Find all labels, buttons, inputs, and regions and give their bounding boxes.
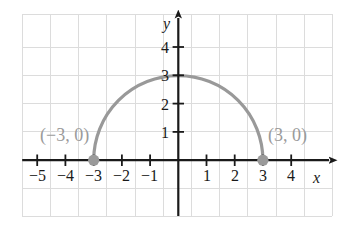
graph-figure: −5 −4 −3 −2 −1 1 2 3 4 1 2 3 4 x y (−3, … bbox=[0, 0, 357, 230]
y-tick-label-2: 2 bbox=[161, 97, 169, 113]
y-tick-label-4: 4 bbox=[161, 40, 169, 56]
endpoint-dot-left bbox=[88, 155, 99, 166]
y-axis-label: y bbox=[163, 16, 170, 32]
x-tick-label-neg1: −1 bbox=[141, 168, 158, 184]
x-tick-label-neg4: −4 bbox=[57, 168, 74, 184]
x-tick-label-neg3: −3 bbox=[85, 168, 102, 184]
coordinate-plane-svg bbox=[0, 0, 357, 230]
endpoint-dot-right bbox=[257, 155, 268, 166]
x-tick-label-4: 4 bbox=[287, 168, 295, 184]
x-tick-label-1: 1 bbox=[203, 168, 211, 184]
y-tick-label-1: 1 bbox=[161, 125, 169, 141]
x-axis-label: x bbox=[313, 170, 320, 186]
x-tick-label-2: 2 bbox=[231, 168, 239, 184]
x-tick-label-3: 3 bbox=[259, 168, 267, 184]
x-tick-label-neg2: −2 bbox=[113, 168, 130, 184]
x-tick-label-neg5: −5 bbox=[29, 168, 46, 184]
y-tick-label-3: 3 bbox=[161, 68, 169, 84]
point-label-left: (−3, 0) bbox=[40, 126, 89, 144]
point-label-right: (3, 0) bbox=[268, 126, 307, 144]
